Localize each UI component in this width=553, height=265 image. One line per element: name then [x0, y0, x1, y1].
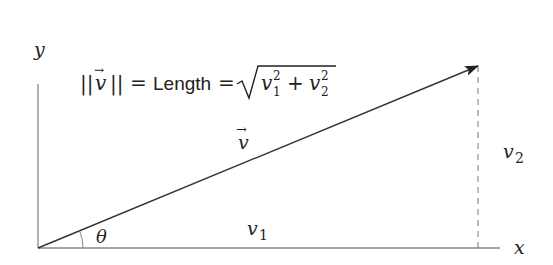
svg-text:2: 2 [273, 69, 281, 83]
y-axis-label: y [33, 38, 45, 60]
svg-text:1: 1 [259, 227, 268, 243]
svg-text:v: v [95, 71, 107, 95]
vertical-component-label: v 2 [503, 140, 524, 166]
horizontal-component-label: v 1 [247, 217, 268, 243]
vector-diagram: y x → v v 2 v 1 θ || → v || = Length = v… [0, 0, 553, 265]
svg-text:1: 1 [273, 85, 281, 99]
vector-label: → v [236, 122, 249, 153]
x-axis-label: x [514, 236, 525, 258]
svg-text:v: v [503, 140, 514, 162]
angle-arc [80, 231, 83, 248]
svg-text:2: 2 [515, 150, 524, 166]
svg-text:v: v [309, 71, 321, 95]
svg-text:=: = [130, 71, 147, 95]
svg-text:Length: Length [153, 73, 211, 94]
svg-text:||: || [80, 71, 93, 96]
length-formula: || → v || = Length = v 2 1 + v 2 2 [80, 63, 336, 99]
svg-text:||: || [110, 71, 123, 96]
svg-text:2: 2 [321, 69, 329, 83]
svg-text:v: v [247, 217, 258, 239]
svg-text:=: = [218, 71, 235, 95]
svg-text:2: 2 [321, 85, 329, 99]
angle-label: θ [96, 226, 107, 247]
svg-text:v: v [261, 71, 273, 95]
svg-text:v: v [238, 131, 249, 153]
svg-text:+: + [287, 71, 304, 95]
